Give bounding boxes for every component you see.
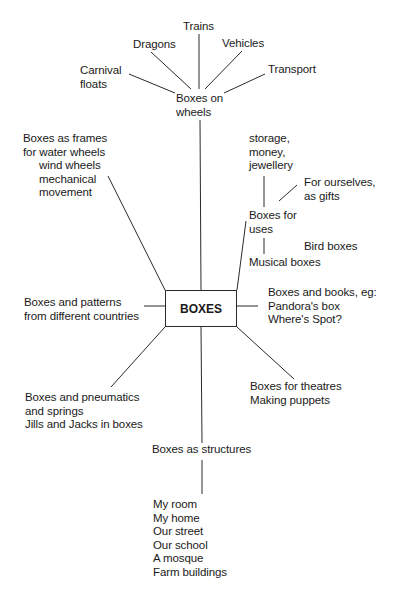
node-boxes-on-wheels: Boxes on wheels	[176, 92, 223, 119]
node-dragons: Dragons	[133, 38, 176, 52]
node-boxes-as-frames: Boxes as frames for water wheels wind wh…	[23, 132, 107, 200]
node-for-ourselves: For ourselves, as gifts	[304, 176, 375, 203]
connector-wheels-center	[200, 120, 201, 290]
connector-theatres-center	[237, 327, 294, 379]
node-trains: Trains	[183, 20, 214, 34]
center-node-boxes: BOXES	[165, 290, 237, 327]
center-node-label: BOXES	[180, 302, 222, 316]
connector-uses-center	[237, 221, 246, 290]
connector-ourselves-uses	[279, 185, 297, 201]
node-carnival-floats: Carnival floats	[80, 64, 121, 91]
node-places-list: My room My home Our street Our school A …	[153, 498, 227, 579]
connector-pneumatics-center	[111, 327, 165, 387]
node-storage: storage, money, jewellery	[249, 132, 293, 173]
node-bird-boxes: Bird boxes	[304, 240, 357, 254]
node-boxes-for-uses: Boxes for uses	[249, 209, 297, 236]
node-vehicles: Vehicles	[222, 37, 264, 51]
connector-vehicles	[205, 51, 242, 89]
connector-transport	[224, 74, 265, 93]
connector-structures-center	[201, 327, 202, 443]
connector-dragons	[151, 52, 191, 89]
node-boxes-for-theatres: Boxes for theatres Making puppets	[250, 380, 342, 407]
node-musical-boxes: Musical boxes	[249, 256, 321, 270]
connector-carnival	[129, 74, 175, 93]
mind-map-canvas: BOXES Trains Dragons Vehicles Carnival f…	[0, 0, 397, 591]
node-boxes-and-books: Boxes and books, eg: Pandora's box Where…	[268, 286, 377, 327]
node-transport: Transport	[268, 63, 316, 77]
connector-frames-center	[108, 176, 165, 290]
node-boxes-as-structures: Boxes as structures	[152, 443, 251, 457]
node-boxes-and-pneumatics: Boxes and pneumatics and springs Jills a…	[25, 391, 143, 432]
node-boxes-and-patterns: Boxes and patterns from different countr…	[24, 296, 139, 323]
